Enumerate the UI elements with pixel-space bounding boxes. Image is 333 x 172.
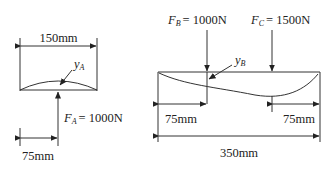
shaft-deflection-diagram: 150mm yA FA= 1000N 75mm FB= 1000N <box>0 0 333 172</box>
right-offset-dim-label: 75mm <box>283 112 315 126</box>
width-dim-label: 150mm <box>39 31 77 45</box>
deflection-leader-arrow <box>60 70 72 85</box>
left-offset-dim-label: 75mm <box>165 112 197 126</box>
right-figure: FB= 1000N FC= 1500N yB 75mm 75mm 350mm <box>158 13 320 160</box>
deflection-label: yA <box>72 57 85 72</box>
deflection-curve <box>20 81 97 90</box>
force-a-label: FA= 1000N <box>63 111 123 126</box>
total-dim-label: 350mm <box>220 146 258 160</box>
deflection-curve <box>159 73 318 96</box>
offset-dim-label: 75mm <box>22 149 54 163</box>
deflection-label: yB <box>233 53 246 68</box>
left-figure: 150mm yA FA= 1000N 75mm <box>20 31 123 163</box>
force-c-label: FC= 1500N <box>250 13 310 28</box>
force-b-label: FB= 1000N <box>167 13 227 28</box>
